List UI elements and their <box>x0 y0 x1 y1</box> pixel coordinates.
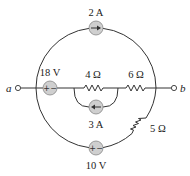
resistor-5-ohm <box>131 118 147 134</box>
current-source-3a <box>89 100 103 114</box>
terminal-b-label: b <box>180 82 186 94</box>
label-4-ohm: 4 Ω <box>85 69 101 80</box>
outer-loop-lower-right-arc <box>103 134 132 148</box>
label-6-ohm: 6 Ω <box>128 69 144 80</box>
terminal-a-node <box>15 85 20 90</box>
outer-loop-right-arc <box>146 88 156 118</box>
minus-sign: − <box>50 84 57 93</box>
voltage-source-10v: + − <box>89 141 103 155</box>
current-source-2a <box>89 21 103 35</box>
circuit-diagram: a b 2 A + − 18 V 4 Ω 6 Ω 3 A 5 Ω + − 10 … <box>0 0 190 176</box>
plus-sign: + <box>43 84 50 93</box>
terminal-b-node <box>171 85 176 90</box>
minus-sign: − <box>96 144 103 153</box>
label-10v: 10 V <box>86 160 107 171</box>
resistor-4-ohm <box>82 85 106 91</box>
resistor-6-ohm <box>124 85 148 91</box>
label-18v: 18 V <box>40 67 61 78</box>
label-3a: 3 A <box>89 119 104 130</box>
outer-loop-lower-left-arc <box>36 88 89 148</box>
label-2a: 2 A <box>89 7 104 18</box>
voltage-source-18v: + − <box>43 81 57 95</box>
label-5-ohm: 5 Ω <box>150 123 166 134</box>
plus-sign: + <box>89 144 96 153</box>
terminal-a-label: a <box>6 82 12 94</box>
